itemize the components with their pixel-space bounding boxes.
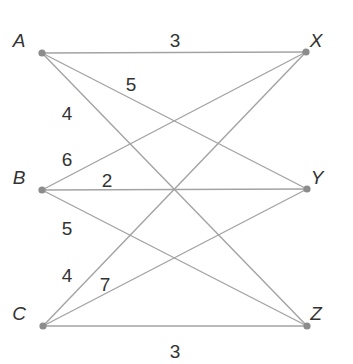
node-label-b: B <box>13 167 26 188</box>
node-label-a: A <box>12 30 26 51</box>
node-label-y: Y <box>311 167 325 188</box>
weight-label-a-x: 3 <box>170 30 181 51</box>
nodes-group: ABCXYZ <box>12 30 325 330</box>
node-label-c: C <box>12 303 26 324</box>
weight-label-a-y: 5 <box>126 74 137 95</box>
edge-a-x <box>42 52 306 53</box>
weight-label-b-y: 2 <box>102 170 113 191</box>
node-x <box>302 48 309 55</box>
weight-label-c-x: 4 <box>62 265 73 286</box>
edge-weights-group: 354625473 <box>62 30 181 362</box>
weight-label-a-z: 4 <box>62 103 73 124</box>
weight-label-c-z: 3 <box>170 341 181 362</box>
edges-group <box>42 52 307 326</box>
node-b <box>38 186 45 193</box>
weight-label-b-z: 5 <box>62 218 73 239</box>
node-label-z: Z <box>309 303 323 324</box>
weight-label-b-x: 6 <box>62 149 73 170</box>
node-y <box>303 185 310 192</box>
node-c <box>39 322 46 329</box>
node-a <box>38 49 45 56</box>
weight-label-c-y: 7 <box>100 274 111 295</box>
bipartite-graph: 354625473 ABCXYZ <box>0 0 353 364</box>
node-label-x: X <box>309 30 324 51</box>
